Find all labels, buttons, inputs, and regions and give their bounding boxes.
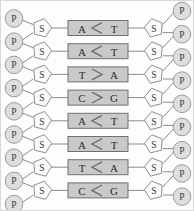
sugar-pentagon-right [144,88,162,106]
base-pair-box [68,137,128,152]
phosphate-circle-left [5,126,23,144]
phosphate-circle-right [173,188,191,206]
sugar-pentagon-left [34,111,52,129]
phosphate-circle-left [5,172,23,190]
sugar-pentagon-right [144,42,162,60]
phosphate-circle-right [173,95,191,113]
phosphate-circle-left [5,195,23,211]
phosphate-circle-right [173,49,191,67]
left-backbone-link [22,136,33,141]
dna-diagram-canvas: ATATTACGATATTACG SSSSSSSSSSSSSSSS PPPPPP… [1,1,194,211]
left-backbone-link [22,113,33,118]
sugar-pentagon-right [144,135,162,153]
right-backbone-link [163,82,174,94]
sugar-pentagon-right [144,111,162,129]
left-backbone-link [22,56,33,64]
right-backbone-link [163,36,174,48]
sugar-pentagon-right [144,158,162,176]
phosphate-circle-left [5,103,23,121]
sugar-pentagon-left [34,135,52,153]
sugar-pentagon-left [34,181,52,199]
phosphate-circle-right [173,141,191,159]
left-backbone-link [22,33,33,41]
left-backbone-link [22,159,33,164]
right-backbone-link [163,13,174,25]
base-pair-box [68,183,128,198]
left-backbone-link [22,195,33,203]
phosphate-circle-right [173,2,191,20]
phosphate-circle-right [173,72,191,90]
right-backbone-link [163,129,174,141]
left-backbone-link [22,90,33,95]
left-backbone-link [22,183,33,188]
right-backbone-link [163,59,174,71]
sugar-pentagon-left [34,158,52,176]
phosphate-circle-left [5,79,23,97]
left-backbone-link [22,67,33,72]
dna-ladder-diagram: ATATTACGATATTACG SSSSSSSSSSSSSSSS PPPPPP… [0,0,194,211]
phosphate-circle-left [5,149,23,167]
left-backbone-link [22,149,33,157]
left-backbone-link [22,79,33,87]
base-pair-box-group: ATATTACGATATTACG [68,21,128,198]
left-backbone-link [22,102,33,110]
base-pair-box [68,21,128,36]
phosphate-circle-left [5,56,23,74]
base-pair-box [68,67,128,82]
phosphate-circle-right [173,165,191,183]
left-backbone-link [22,43,33,48]
sugar-pentagon-left [34,88,52,106]
phosphate-circle-right [173,25,191,43]
right-backbone-link [163,175,174,187]
base-pair-box [68,160,128,175]
base-pair-box [68,44,128,59]
sugar-pentagon-left [34,42,52,60]
sugar-pentagon-left [34,19,52,37]
phosphate-circle-left [5,33,23,51]
sugar-pentagon-right [144,181,162,199]
phosphate-circle-left [5,10,23,28]
left-backbone-link [22,172,33,180]
left-backbone-link [22,20,33,25]
left-backbone-link [22,125,33,132]
sugar-pentagon-right [144,65,162,83]
right-backbone-link [163,105,174,117]
right-backbone-link [163,152,174,164]
base-pair-box [68,90,128,105]
sugar-pentagon-right [144,19,162,37]
sugar-pentagon-left [34,65,52,83]
base-pair-box [68,113,128,128]
phosphate-circle-right [173,118,191,136]
